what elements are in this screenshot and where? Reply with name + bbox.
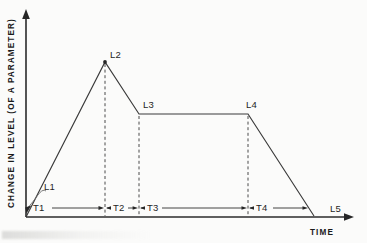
level-vs-time-line-chart: L2 L3 L4 L5 L1 T1 T2 T3 T4 TIME CHANGE I… — [0, 0, 367, 243]
dashed-guides-group — [105, 64, 248, 216]
chart-figure: L2 L3 L4 L5 L1 T1 T2 T3 T4 TIME CHANGE I… — [0, 0, 367, 243]
axes-group — [22, 9, 354, 221]
level-label-l3: L3 — [143, 99, 154, 110]
y-axis-arrowhead — [22, 9, 30, 19]
time-segment-label-t3: T3 — [147, 202, 159, 213]
time-segment-label-t1: T1 — [33, 202, 45, 213]
peak-marker-l2 — [103, 60, 107, 64]
time-segment-lines-group — [52, 206, 308, 210]
segment-arrow-t4-right — [303, 206, 309, 210]
segment-arrow-t3-left — [140, 206, 145, 210]
level-label-l2: L2 — [110, 49, 121, 60]
y-axis-title: CHANGE IN LEVEL (OF A PARAMETER) — [7, 18, 16, 208]
segment-arrow-t2-right — [133, 206, 138, 210]
parameter-level-curve — [26, 62, 314, 217]
segment-arrow-t1-right — [99, 206, 105, 210]
segment-arrow-t3-right — [242, 206, 248, 210]
x-axis-title: TIME — [310, 228, 334, 237]
level-label-l5: L5 — [330, 203, 341, 214]
segment-arrow-t4-left — [249, 206, 254, 210]
level-label-l4: L4 — [246, 99, 257, 110]
time-segment-label-t4: T4 — [256, 202, 268, 213]
segment-arrow-t2-left — [106, 206, 111, 210]
level-label-l1: L1 — [44, 181, 55, 192]
x-axis-arrowhead — [344, 213, 354, 221]
time-segment-label-t2: T2 — [113, 202, 125, 213]
